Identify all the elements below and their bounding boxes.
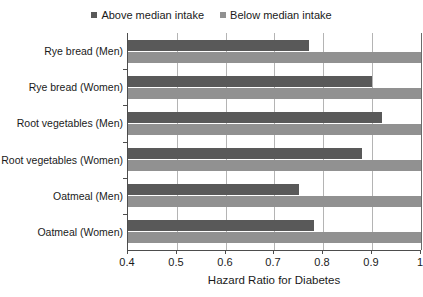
plot-area xyxy=(127,33,420,250)
bar-group xyxy=(128,220,420,243)
bar-group xyxy=(128,40,420,63)
x-axis-tick xyxy=(273,250,274,254)
legend-label-above-median: Above median intake xyxy=(101,9,204,21)
bar-below-median xyxy=(128,88,421,99)
bar-group xyxy=(128,76,420,99)
x-axis-tick xyxy=(322,250,323,254)
x-axis-tick-label: 0.4 xyxy=(119,256,134,269)
y-axis-tick xyxy=(123,178,127,179)
x-axis-tick-label: 1 xyxy=(417,256,423,269)
bar-above-median xyxy=(128,40,309,51)
y-axis-tick xyxy=(123,214,127,215)
chart-legend: Above median intake Below median intake xyxy=(0,9,423,21)
y-axis-labels: Rye bread (Men)Rye bread (Women)Root veg… xyxy=(0,33,123,250)
legend-item-below-median: Below median intake xyxy=(220,9,332,21)
y-axis-label: Oatmeal (Men) xyxy=(0,190,123,202)
bar-series-container xyxy=(128,33,420,250)
x-axis-tick-label: 0.5 xyxy=(168,256,183,269)
bar-below-median xyxy=(128,124,421,135)
bar-above-median xyxy=(128,184,299,195)
bar-above-median xyxy=(128,220,314,231)
bar-above-median xyxy=(128,112,382,123)
x-axis-tick-label: 0.8 xyxy=(314,256,329,269)
y-axis-label: Rye bread (Women) xyxy=(0,81,123,93)
bar-below-median xyxy=(128,232,421,243)
hazard-ratio-bar-chart: Above median intake Below median intake … xyxy=(0,0,423,297)
y-axis-tick xyxy=(123,142,127,143)
x-axis-title: Hazard Ratio for Diabetes xyxy=(127,273,421,287)
x-axis-tick-label: 0.9 xyxy=(363,256,378,269)
bar-above-median xyxy=(128,76,372,87)
bar-group xyxy=(128,184,420,207)
y-axis-label: Rye bread (Men) xyxy=(0,45,123,57)
y-axis-label: Oatmeal (Women) xyxy=(0,226,123,238)
x-axis-tick-label: 0.6 xyxy=(217,256,232,269)
bar-group xyxy=(128,148,420,171)
bar-below-median xyxy=(128,52,421,63)
legend-swatch-above-median-icon xyxy=(91,12,97,18)
gridline xyxy=(421,33,422,250)
bar-above-median xyxy=(128,148,362,159)
bar-below-median xyxy=(128,160,421,171)
x-axis-tick xyxy=(420,250,421,254)
bar-below-median xyxy=(128,196,421,207)
x-axis-line xyxy=(127,250,421,251)
y-axis-label: Root vegetables (Men) xyxy=(0,117,123,129)
legend-item-above-median: Above median intake xyxy=(91,9,204,21)
y-axis-label: Root vegetables (Women) xyxy=(0,154,123,166)
x-axis-tick xyxy=(371,250,372,254)
x-axis-tick xyxy=(225,250,226,254)
x-axis-tick-label: 0.7 xyxy=(265,256,280,269)
legend-label-below-median: Below median intake xyxy=(230,9,332,21)
x-axis-tick xyxy=(176,250,177,254)
y-axis-tick xyxy=(123,69,127,70)
legend-swatch-below-median-icon xyxy=(220,12,226,18)
bar-group xyxy=(128,112,420,135)
x-axis-tick xyxy=(127,250,128,254)
y-axis-tick xyxy=(123,105,127,106)
